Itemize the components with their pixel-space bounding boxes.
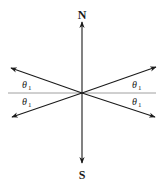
theta-label-upper-right: θ 1 bbox=[132, 79, 142, 92]
svg-text:1: 1 bbox=[28, 84, 32, 92]
south-label: S bbox=[79, 168, 86, 182]
svg-text:1: 1 bbox=[138, 101, 142, 109]
svg-text:θ: θ bbox=[132, 96, 137, 107]
theta-label-lower-right: θ 1 bbox=[132, 96, 142, 109]
north-label: N bbox=[78, 8, 87, 22]
svg-text:θ: θ bbox=[22, 79, 27, 90]
svg-text:1: 1 bbox=[28, 101, 32, 109]
svg-text:θ: θ bbox=[22, 96, 27, 107]
theta-label-lower-left: θ 1 bbox=[22, 96, 32, 109]
theta-label-upper-left: θ 1 bbox=[22, 79, 32, 92]
svg-text:1: 1 bbox=[138, 84, 142, 92]
compass-diagram: N S θ 1 θ 1 θ 1 θ 1 bbox=[0, 0, 165, 190]
upper-right-arrow bbox=[82, 67, 156, 93]
svg-text:θ: θ bbox=[132, 79, 137, 90]
lower-right-arrow bbox=[82, 93, 155, 117]
